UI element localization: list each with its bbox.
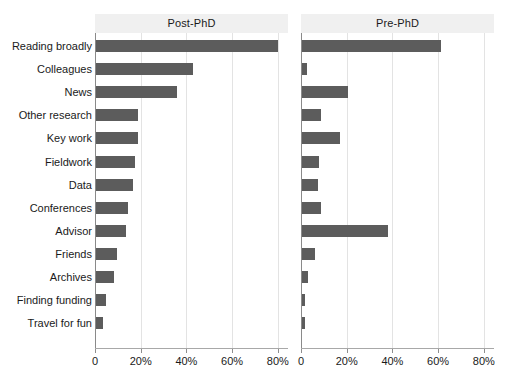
bar xyxy=(302,132,340,144)
bar xyxy=(302,179,318,191)
x-axis-tick-label: 0 xyxy=(92,355,98,367)
panel-title-post-phd: Post-PhD xyxy=(95,14,288,33)
bar xyxy=(96,86,177,98)
x-axis-tick-label: 40% xyxy=(381,355,403,367)
x-axis-tick xyxy=(232,349,233,353)
bar xyxy=(96,132,138,144)
x-axis-tick-label: 40% xyxy=(175,355,197,367)
category-label: Colleagues xyxy=(37,63,92,75)
x-axis-tick-label: 0 xyxy=(298,355,304,367)
bar xyxy=(302,40,441,52)
bar xyxy=(96,40,278,52)
bar xyxy=(302,317,305,329)
panel-pre-phd: Pre-PhD 020%40%60%80% xyxy=(301,14,494,348)
x-axis-tick-label: 20% xyxy=(336,355,358,367)
category-label: Friends xyxy=(55,248,92,260)
bar xyxy=(302,294,305,306)
category-label: Archives xyxy=(50,271,92,283)
x-axis-tick-label: 80% xyxy=(267,355,289,367)
bar xyxy=(96,317,103,329)
category-label: Reading broadly xyxy=(12,40,92,52)
bar xyxy=(96,202,128,214)
bar xyxy=(302,156,319,168)
gridline xyxy=(438,33,439,348)
category-label: Conferences xyxy=(30,202,92,214)
bar xyxy=(302,271,308,283)
category-label: Data xyxy=(69,179,92,191)
gridline xyxy=(347,33,348,348)
bar xyxy=(302,86,348,98)
x-axis-tick xyxy=(392,349,393,353)
x-axis-tick-label: 80% xyxy=(473,355,495,367)
x-axis-tick-label: 20% xyxy=(130,355,152,367)
x-axis-line xyxy=(95,348,288,349)
x-axis-tick xyxy=(278,349,279,353)
faceted-bar-chart: Reading broadlyColleaguesNewsOther resea… xyxy=(0,0,510,384)
x-axis-line xyxy=(301,348,494,349)
category-label: Other research xyxy=(19,109,92,121)
category-label: Finding funding xyxy=(17,294,92,306)
gridline xyxy=(484,33,485,348)
plot-area-pre-phd xyxy=(301,33,494,348)
bar xyxy=(96,294,106,306)
bar xyxy=(302,109,321,121)
x-axis-tick-label: 60% xyxy=(221,355,243,367)
category-axis-labels: Reading broadlyColleaguesNewsOther resea… xyxy=(0,0,92,384)
panel-post-phd: Post-PhD 020%40%60%80% xyxy=(95,14,288,348)
x-axis-tick xyxy=(186,349,187,353)
x-axis-tick xyxy=(141,349,142,353)
bar xyxy=(96,156,135,168)
plot-area-post-phd xyxy=(95,33,288,348)
bar xyxy=(96,109,138,121)
x-axis-tick xyxy=(484,349,485,353)
panel-title-pre-phd: Pre-PhD xyxy=(301,14,494,33)
category-label: Key work xyxy=(47,132,92,144)
bar xyxy=(302,248,315,260)
panel-strip-post-phd: Post-PhD xyxy=(95,14,288,33)
bar xyxy=(96,225,126,237)
gridline xyxy=(186,33,187,348)
bar xyxy=(96,271,114,283)
bar xyxy=(302,202,321,214)
bar xyxy=(96,248,117,260)
gridline xyxy=(232,33,233,348)
gridline xyxy=(392,33,393,348)
gridline xyxy=(141,33,142,348)
x-axis-tick-label: 60% xyxy=(427,355,449,367)
bar xyxy=(96,63,193,75)
category-label: Advisor xyxy=(55,225,92,237)
x-axis-tick xyxy=(95,349,96,353)
gridline xyxy=(278,33,279,348)
bar xyxy=(96,179,133,191)
bar xyxy=(302,225,388,237)
category-label: Fieldwork xyxy=(45,156,92,168)
panel-strip-pre-phd: Pre-PhD xyxy=(301,14,494,33)
x-axis-tick xyxy=(347,349,348,353)
category-label: Travel for fun xyxy=(28,317,92,329)
bar xyxy=(302,63,307,75)
category-label: News xyxy=(64,86,92,98)
x-axis-tick xyxy=(301,349,302,353)
x-axis-tick xyxy=(438,349,439,353)
